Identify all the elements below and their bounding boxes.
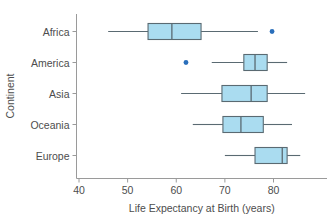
boxplot-canvas: 4050607080AfricaAmericaAsiaOceaniaEurope… bbox=[0, 0, 332, 220]
x-axis-tick-label: 80 bbox=[268, 184, 280, 196]
x-axis-title: Life Expectancy at Birth (years) bbox=[129, 202, 275, 214]
x-axis-tick-label: 60 bbox=[170, 184, 182, 196]
box bbox=[223, 117, 263, 133]
y-axis-category-label: Oceania bbox=[30, 119, 69, 131]
y-axis-title: Continent bbox=[4, 73, 16, 118]
y-axis-category-label: Asia bbox=[49, 88, 70, 100]
x-axis-tick-label: 40 bbox=[73, 184, 85, 196]
y-axis-category-label: America bbox=[31, 57, 70, 69]
outlier-point bbox=[184, 60, 189, 65]
y-axis-category-label: Africa bbox=[43, 26, 70, 38]
boxplot-group-oceania bbox=[193, 117, 292, 133]
outlier-point bbox=[270, 29, 275, 34]
boxplot-group-asia bbox=[181, 86, 305, 102]
boxplot-group-europe bbox=[225, 148, 300, 164]
boxplot-group-africa bbox=[108, 24, 274, 40]
boxplot-group-america bbox=[184, 55, 288, 71]
box bbox=[148, 24, 201, 40]
boxplot-figure: 4050607080AfricaAmericaAsiaOceaniaEurope… bbox=[0, 0, 332, 220]
x-axis-tick-label: 50 bbox=[122, 184, 134, 196]
y-axis-category-label: Europe bbox=[36, 150, 70, 162]
box bbox=[222, 86, 267, 102]
x-axis-tick-label: 70 bbox=[219, 184, 231, 196]
